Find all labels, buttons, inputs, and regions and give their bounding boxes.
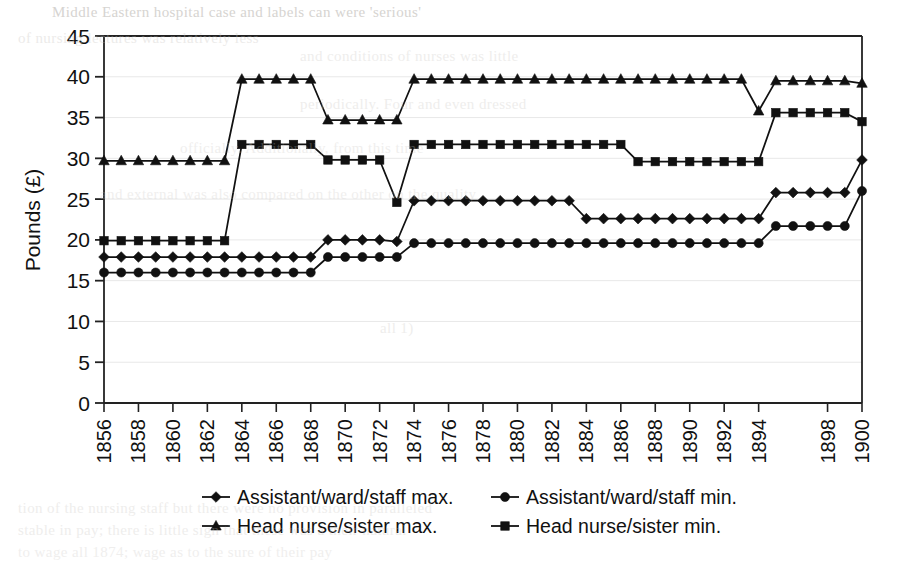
data-point-marker	[634, 239, 643, 248]
data-point-marker	[150, 252, 161, 263]
legend-item[interactable]: Assistant/ward/staff max.	[202, 486, 453, 508]
legend-marker-diamond-icon	[211, 492, 222, 503]
data-point-marker	[272, 268, 281, 277]
chart-legend: Assistant/ward/staff max.Assistant/ward/…	[202, 486, 737, 537]
data-point-marker	[617, 140, 625, 148]
x-tick-label: 1874	[403, 419, 425, 464]
y-tick-label: 30	[67, 147, 90, 170]
data-point-marker	[341, 252, 350, 261]
x-tick-label: 1866	[265, 419, 287, 464]
data-point-marker	[754, 157, 762, 165]
x-tick-label: 1888	[644, 419, 666, 464]
data-point-marker	[288, 252, 299, 263]
y-tick-label: 25	[67, 188, 90, 211]
data-point-marker	[772, 108, 780, 116]
data-point-marker	[496, 239, 505, 248]
data-point-marker	[460, 195, 471, 206]
data-point-marker	[753, 213, 764, 224]
data-point-marker	[513, 239, 522, 248]
data-point-marker	[496, 140, 504, 148]
data-point-marker	[99, 252, 110, 263]
x-tick-label: 1876	[438, 419, 460, 464]
data-point-marker	[565, 239, 574, 248]
data-point-marker	[461, 239, 470, 248]
data-point-marker	[720, 239, 729, 248]
data-point-marker	[547, 239, 556, 248]
data-point-marker	[839, 187, 850, 198]
legend-label: Assistant/ward/staff min.	[526, 486, 737, 508]
data-point-marker	[306, 268, 315, 277]
x-tick-label: 1860	[162, 419, 184, 464]
data-point-marker	[789, 108, 797, 116]
data-point-marker	[392, 252, 401, 261]
legend-marker-circle-icon	[500, 492, 509, 501]
y-tick-label: 10	[67, 310, 90, 333]
x-tick-label: 1886	[610, 419, 632, 464]
x-tick-label: 1898	[817, 419, 839, 464]
data-point-marker	[443, 195, 454, 206]
data-point-marker	[650, 213, 661, 224]
legend-item[interactable]: Assistant/ward/staff min.	[491, 486, 737, 508]
x-tick-label: 1894	[748, 419, 770, 464]
data-point-marker	[444, 140, 452, 148]
data-point-marker	[374, 235, 385, 246]
data-point-marker	[203, 268, 212, 277]
data-point-marker	[185, 252, 196, 263]
x-tick-label: 1890	[679, 419, 701, 464]
data-point-marker	[444, 239, 453, 248]
data-point-marker	[806, 108, 814, 116]
y-axis-label: Pounds (£)	[21, 169, 44, 272]
data-point-marker	[547, 195, 558, 206]
data-point-marker	[134, 268, 143, 277]
series-square	[100, 108, 866, 245]
data-point-marker	[236, 252, 247, 263]
legend-item[interactable]: Head nurse/sister min.	[491, 515, 721, 537]
series-triangle	[99, 74, 867, 165]
data-point-marker	[427, 140, 435, 148]
x-tick-label: 1862	[196, 419, 218, 464]
data-point-marker	[323, 252, 332, 261]
data-point-marker	[324, 156, 332, 164]
data-point-marker	[805, 187, 816, 198]
data-point-marker	[668, 157, 676, 165]
data-point-marker	[427, 239, 436, 248]
data-point-marker	[151, 236, 159, 244]
data-point-marker	[168, 252, 179, 263]
data-point-marker	[529, 195, 540, 206]
data-point-marker	[823, 221, 832, 230]
x-tick-label: 1892	[713, 419, 735, 464]
data-point-marker	[737, 157, 745, 165]
y-tick-label: 20	[67, 228, 90, 251]
data-point-marker	[599, 239, 608, 248]
data-point-marker	[203, 236, 211, 244]
data-point-marker	[168, 268, 177, 277]
data-point-marker	[512, 195, 523, 206]
data-point-marker	[719, 213, 730, 224]
data-point-marker	[702, 239, 711, 248]
y-tick-label: 5	[78, 351, 90, 374]
data-point-marker	[393, 198, 401, 206]
data-point-marker	[686, 157, 694, 165]
data-point-marker	[134, 236, 142, 244]
x-tick-label: 1884	[575, 419, 597, 464]
data-point-marker	[822, 187, 833, 198]
x-tick-label: 1882	[541, 419, 563, 464]
x-tick-label: 1870	[334, 419, 356, 464]
data-point-marker	[530, 239, 539, 248]
data-point-marker	[513, 140, 521, 148]
data-point-marker	[616, 239, 625, 248]
data-point-marker	[633, 213, 644, 224]
data-point-marker	[530, 140, 538, 148]
data-point-marker	[495, 195, 506, 206]
data-point-marker	[479, 140, 487, 148]
data-point-marker	[478, 239, 487, 248]
data-point-marker	[771, 187, 782, 198]
y-tick-label: 35	[67, 106, 90, 129]
data-point-marker	[634, 157, 642, 165]
legend-marker-square-icon	[501, 522, 509, 530]
x-tick-label: 1868	[300, 419, 322, 464]
y-tick-label: 45	[67, 25, 90, 48]
data-point-marker	[117, 268, 126, 277]
y-tick-label: 15	[67, 269, 90, 292]
legend-item[interactable]: Head nurse/sister max.	[202, 515, 438, 537]
